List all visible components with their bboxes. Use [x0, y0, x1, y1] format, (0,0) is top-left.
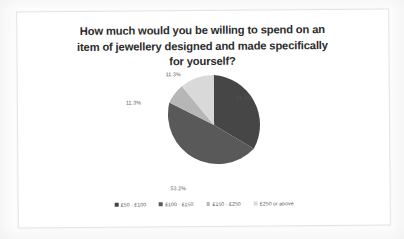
- pie-svg: [161, 73, 266, 178]
- legend-item: £250 or above: [254, 200, 294, 206]
- chart-title-line-3: for yourself?: [39, 53, 365, 71]
- legend-swatch-icon: [254, 202, 258, 206]
- legend-item: £150 - £250: [206, 201, 240, 207]
- chart-title-line-1: How much would you be willing to spend o…: [39, 22, 365, 40]
- legend-swatch-icon: [206, 202, 210, 206]
- legend-item-label: £250 or above: [260, 200, 294, 206]
- legend-item-label: £50 - £100: [121, 201, 146, 207]
- data-label-top: 11.3%: [166, 71, 181, 77]
- scanned-page: How much would you be willing to spend o…: [0, 0, 404, 239]
- legend-swatch-icon: [159, 203, 163, 207]
- legend-swatch-icon: [115, 203, 119, 207]
- legend-item: £100 - £150: [159, 201, 193, 207]
- pie-graphic: [161, 73, 266, 178]
- chart-title: How much would you be willing to spend o…: [39, 22, 365, 71]
- legend-item: £50 - £100: [115, 201, 146, 207]
- chart-title-line-2: item of jewellery designed and made spec…: [39, 37, 365, 55]
- legend-item-label: £100 - £150: [165, 201, 193, 207]
- chart-legend: £50 - £100 £100 - £150 £150 - £250 £250 …: [19, 200, 390, 209]
- pie-chart-area: 11.3% 11.3% 24.2% 53.2%: [18, 72, 390, 195]
- data-label-right: 24.2%: [236, 95, 252, 101]
- chart-frame: How much would you be willing to spend o…: [16, 9, 391, 229]
- legend-item-label: £150 - £250: [212, 201, 240, 207]
- data-label-bottom: 53.2%: [171, 185, 187, 191]
- data-label-left: 11.3%: [126, 99, 141, 105]
